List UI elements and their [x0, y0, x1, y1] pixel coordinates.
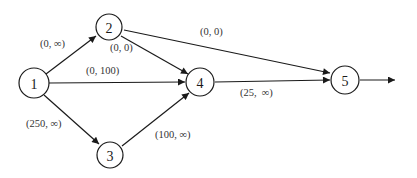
edge-4-5 — [215, 80, 330, 82]
node-2: 2 — [96, 14, 122, 40]
node-1: 1 — [19, 68, 49, 98]
edge-label-2-5: (0, 0) — [200, 26, 223, 38]
node-3: 3 — [97, 142, 123, 168]
node-4-label: 4 — [197, 76, 204, 91]
node-5: 5 — [331, 66, 359, 94]
node-3-label: 3 — [107, 149, 114, 164]
flow-network-diagram: (0, ∞) (0, 100) (250, ∞) (0, 0) (0, 0) (… — [0, 0, 417, 178]
node-2-label: 2 — [106, 21, 113, 36]
node-4: 4 — [186, 68, 214, 96]
edge-label-1-3: (250, ∞) — [26, 118, 62, 130]
edge-1-4 — [49, 82, 185, 83]
edge-label-2-4: (0, 0) — [110, 42, 133, 54]
edge-2-5 — [124, 30, 330, 73]
edge-label-1-2: (0, ∞) — [40, 38, 65, 50]
edge-label-3-4: (100, ∞) — [155, 129, 191, 141]
edge-label-1-4: (0, 100) — [86, 65, 120, 77]
node-5-label: 5 — [342, 74, 349, 89]
node-1-label: 1 — [31, 77, 38, 92]
edge-label-4-5: (25, ∞) — [240, 87, 273, 99]
